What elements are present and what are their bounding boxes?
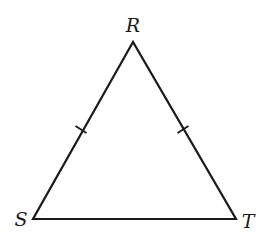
vertex-label-s: S	[14, 208, 27, 230]
vertex-label-t: T	[242, 210, 256, 232]
triangle-rst	[33, 42, 236, 219]
triangle-diagram: R S T	[0, 0, 269, 240]
triangle-svg: R S T	[0, 0, 269, 240]
vertex-label-r: R	[125, 14, 140, 36]
